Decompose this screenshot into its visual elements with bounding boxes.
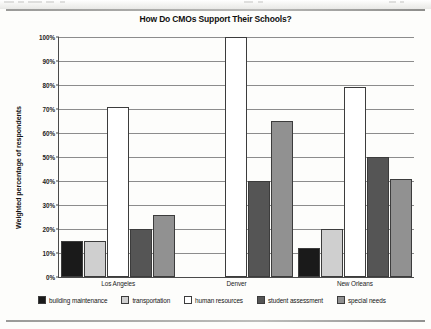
bar	[84, 241, 106, 277]
y-axis-tick-label: 70%	[42, 106, 55, 113]
x-axis-category-label: Denver	[177, 280, 295, 287]
legend-item[interactable]: special needs	[337, 296, 386, 304]
legend-label: transportation	[132, 297, 170, 304]
bar	[130, 229, 152, 277]
y-axis-tick-label: 100%	[39, 34, 55, 41]
bar	[248, 181, 270, 277]
bar-group: Denver	[177, 37, 295, 277]
legend-item[interactable]: student assessment	[257, 296, 323, 304]
bar	[298, 248, 320, 277]
legend-item[interactable]: building maintenance	[38, 296, 107, 304]
bar-group: Los Angeles	[59, 37, 177, 277]
y-axis-tick-label: 30%	[42, 202, 55, 209]
bar	[390, 179, 412, 277]
legend-label: building maintenance	[49, 297, 107, 304]
bar	[225, 37, 247, 277]
bar	[61, 241, 83, 277]
chart-legend: building maintenancetransportationhuman …	[38, 296, 418, 304]
y-axis-tick-label: 20%	[42, 226, 55, 233]
legend-swatch-icon	[38, 296, 46, 304]
legend-item[interactable]: human resources	[184, 296, 243, 304]
y-axis-tick-label: 40%	[42, 178, 55, 185]
bar-chart-figure: How Do CMOs Support Their Schools? Weigh…	[0, 11, 431, 320]
bar-group: New Orleans	[296, 37, 414, 277]
legend-item[interactable]: transportation	[121, 296, 170, 304]
bar	[107, 107, 129, 277]
y-axis-tick-label: 60%	[42, 130, 55, 137]
legend-label: human resources	[195, 297, 243, 304]
x-axis-category-label: Los Angeles	[59, 280, 177, 287]
legend-swatch-icon	[121, 296, 129, 304]
legend-swatch-icon	[184, 296, 192, 304]
bar	[271, 121, 293, 277]
bar	[344, 87, 366, 277]
legend-label: student assessment	[268, 297, 323, 304]
chart-title: How Do CMOs Support Their Schools?	[0, 14, 431, 24]
y-axis-tick-label: 80%	[42, 82, 55, 89]
bar	[321, 229, 343, 277]
y-axis-title: Weighted percentage of respondents	[14, 83, 23, 253]
legend-label: special needs	[348, 297, 386, 304]
plot-area: 100%90%80%70%60%50%40%30%20%10%0% Los An…	[58, 37, 414, 278]
y-axis-tick-label: 0%	[46, 274, 55, 281]
y-axis-tick-label: 10%	[42, 250, 55, 257]
scan-artifact-top	[0, 0, 431, 9]
y-axis-tick-label: 90%	[42, 58, 55, 65]
x-axis-category-label: New Orleans	[296, 280, 414, 287]
bar	[367, 157, 389, 277]
bar	[153, 215, 175, 277]
y-axis-tick-label: 50%	[42, 154, 55, 161]
bars-layer: Los AngelesDenverNew Orleans	[59, 37, 414, 277]
legend-swatch-icon	[257, 296, 265, 304]
legend-swatch-icon	[337, 296, 345, 304]
gridline: 0%	[59, 277, 414, 278]
page-rule-bottom	[6, 320, 425, 322]
